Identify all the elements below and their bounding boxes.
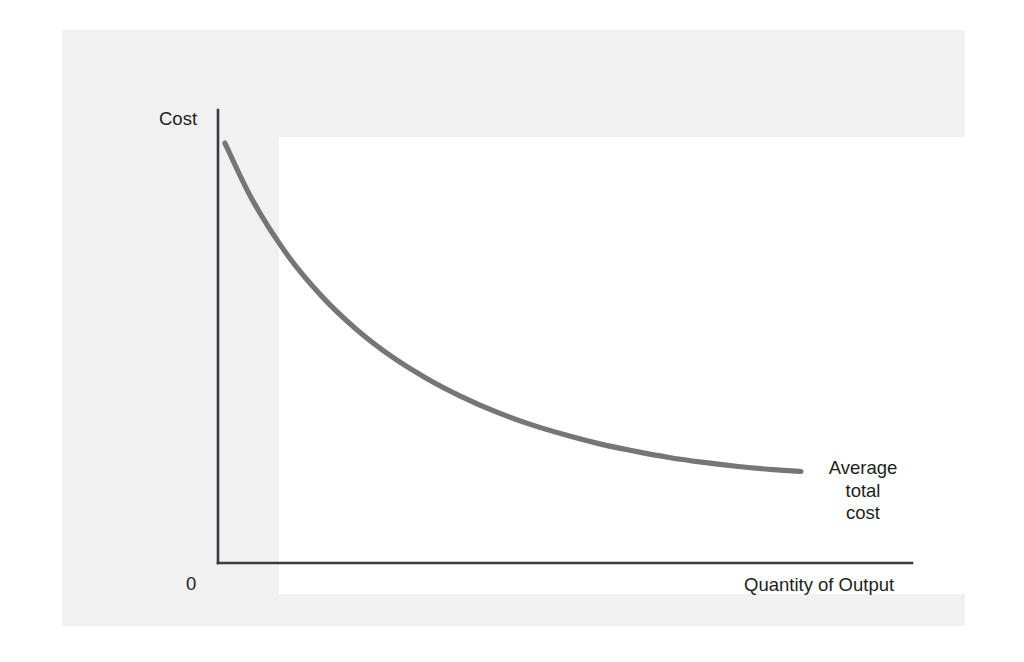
chart-graphics [0,0,1024,662]
average-total-cost-annotation: Average total cost [811,457,915,525]
annotation-line-3: cost [811,502,915,525]
origin-label: 0 [186,573,196,596]
y-axis-title: Cost [159,108,197,131]
annotation-line-1: Average [811,457,915,480]
average-total-cost-curve [225,143,801,471]
figure-root: Cost 0 Quantity of Output Average total … [0,0,1024,662]
annotation-line-2: total [811,480,915,503]
x-axis-title: Quantity of Output [744,574,894,597]
